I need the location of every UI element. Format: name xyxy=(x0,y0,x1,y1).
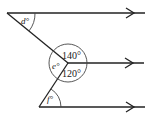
angle-f-label: f° xyxy=(47,94,54,104)
angle-140-label: 140° xyxy=(62,50,81,61)
angle-d-arc xyxy=(29,13,35,31)
angle-120-label: 120° xyxy=(62,68,81,79)
angle-diagram: d° 140° e° 120° f° xyxy=(0,0,155,127)
angle-d-label: d° xyxy=(21,16,30,26)
upper-transversal xyxy=(7,13,68,63)
angle-e-label: e° xyxy=(52,61,60,71)
